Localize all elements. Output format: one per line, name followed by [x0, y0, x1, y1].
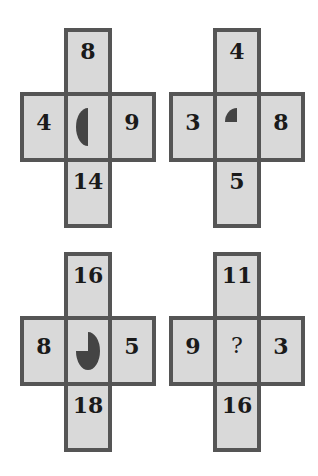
- cross-1: 8 4 9 14: [20, 28, 154, 230]
- cell-value: 3: [273, 335, 288, 357]
- cell-right: 3: [257, 316, 305, 386]
- cell-top: 4: [213, 28, 261, 98]
- cell-top: 11: [213, 252, 261, 322]
- cell-value: 8: [36, 335, 51, 357]
- cell-value: 5: [229, 170, 244, 192]
- cross-4: 11 9 3 16 ?: [169, 252, 303, 454]
- cross-2: 4 3 8 5: [169, 28, 303, 230]
- cell-value: 5: [124, 335, 139, 357]
- cross-3: 16 8 5 18: [20, 252, 154, 454]
- cell-right: 5: [108, 316, 156, 386]
- cell-left: 9: [169, 316, 217, 386]
- three-quarter-circle-icon: [68, 320, 108, 382]
- cell-value: 11: [222, 264, 253, 286]
- cell-value: 8: [273, 111, 288, 133]
- cell-bottom: 14: [64, 158, 112, 228]
- cell-bottom: 5: [213, 158, 261, 228]
- cell-value: 9: [185, 335, 200, 357]
- cell-value: 14: [73, 170, 104, 192]
- cell-center: [213, 92, 261, 162]
- cell-value: 4: [229, 40, 244, 62]
- cell-bottom: 18: [64, 382, 112, 452]
- cell-right: 8: [257, 92, 305, 162]
- cell-left: 4: [20, 92, 68, 162]
- cell-value: 8: [80, 40, 95, 62]
- cell-value: 16: [73, 264, 104, 286]
- cell-value: 18: [73, 394, 104, 416]
- cell-value: 3: [185, 111, 200, 133]
- cell-left: 8: [20, 316, 68, 386]
- cell-value: 4: [36, 111, 51, 133]
- cell-center: ?: [213, 316, 261, 386]
- cell-left: 3: [169, 92, 217, 162]
- cell-center: [64, 92, 112, 162]
- half-circle-icon: [68, 96, 108, 158]
- cell-bottom: 16: [213, 382, 261, 452]
- cell-right: 9: [108, 92, 156, 162]
- cell-center: [64, 316, 112, 386]
- cell-top: 8: [64, 28, 112, 98]
- quarter-circle-icon: [217, 96, 257, 158]
- cell-value: 16: [222, 394, 253, 416]
- question-mark: ?: [231, 335, 243, 357]
- cell-top: 16: [64, 252, 112, 322]
- cell-value: 9: [124, 111, 139, 133]
